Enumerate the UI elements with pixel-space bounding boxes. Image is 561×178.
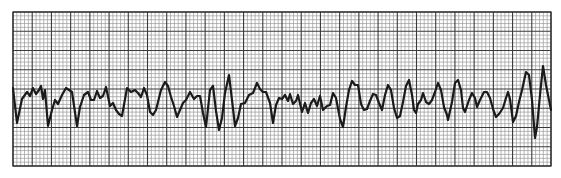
ecg-strip-chart: [0, 0, 561, 178]
